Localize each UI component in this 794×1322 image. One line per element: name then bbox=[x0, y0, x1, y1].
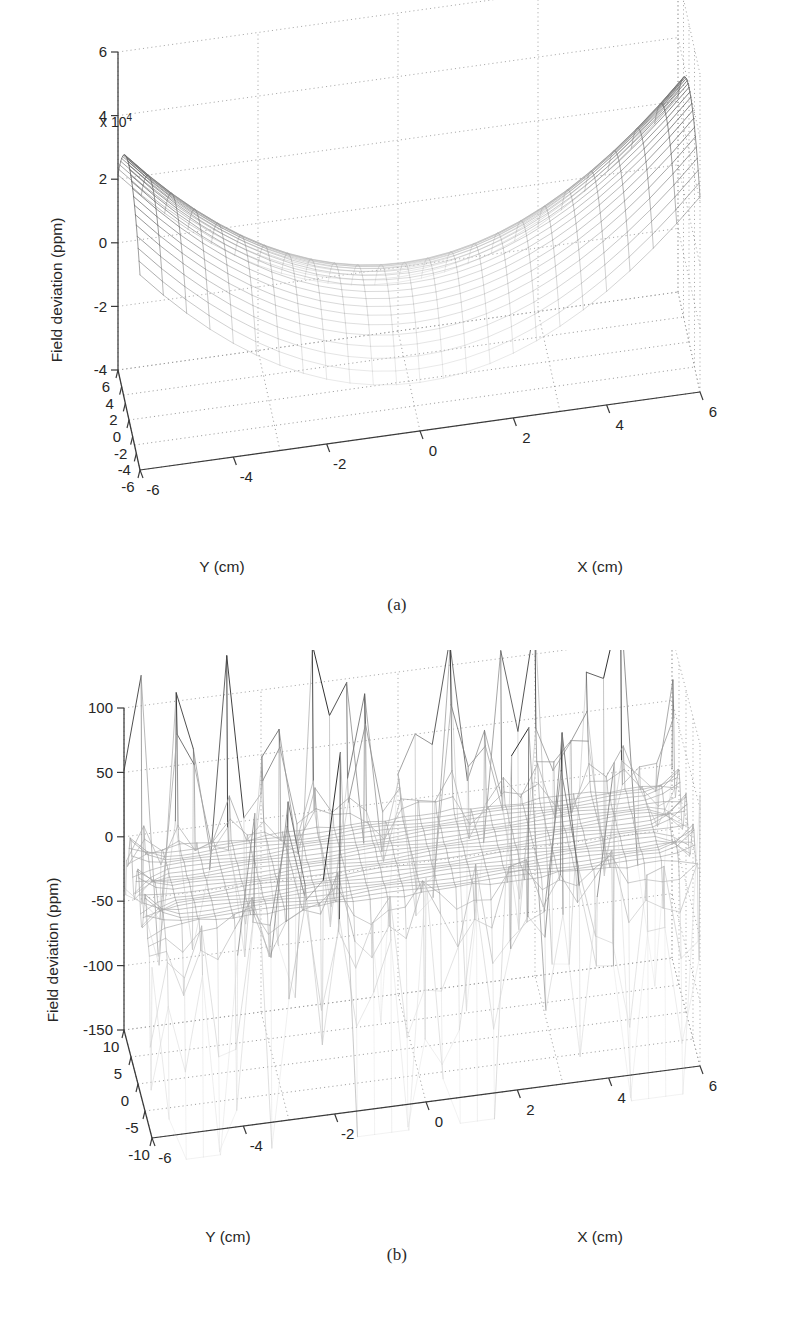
x-tick-label: 4 bbox=[616, 416, 624, 433]
z-tick-label: -100 bbox=[83, 957, 113, 974]
y-tick-label: -2 bbox=[114, 445, 127, 462]
z-axis-exponent-label: x 104 bbox=[100, 112, 132, 130]
caption-b: (b) bbox=[0, 1245, 794, 1265]
x-tick-label: 2 bbox=[526, 1101, 534, 1118]
z-tick-label: 0 bbox=[105, 828, 113, 845]
surface-plot-b: -6-4-202461050-5-10100500-50-100-150X (c… bbox=[0, 650, 794, 1310]
subfigure-a: -6-4-202466420-2-4-66420-2-4X (cm)Y (cm)… bbox=[0, 0, 794, 640]
x-tick-label: -6 bbox=[158, 1149, 171, 1166]
z-tick-label: 50 bbox=[96, 764, 113, 781]
y-axis-title: Y (cm) bbox=[199, 558, 244, 575]
x-tick-label: 0 bbox=[429, 442, 437, 459]
z-tick-label: 2 bbox=[99, 170, 107, 187]
grid-group bbox=[118, 0, 700, 470]
y-tick-label: 2 bbox=[109, 411, 117, 428]
x-tick-label: 6 bbox=[709, 1077, 717, 1094]
x-tick-label: -2 bbox=[341, 1125, 354, 1142]
y-tick-label: 10 bbox=[103, 1038, 120, 1055]
z-tick-label: 6 bbox=[99, 43, 107, 60]
x-tick-label: 6 bbox=[709, 403, 717, 420]
subfigure-b: -6-4-202461050-5-10100500-50-100-150X (c… bbox=[0, 650, 794, 1310]
x-tick-label: 2 bbox=[522, 429, 530, 446]
z-tick-label: -2 bbox=[94, 298, 107, 315]
y-tick-label: -4 bbox=[118, 461, 131, 478]
y-tick-label: 5 bbox=[114, 1065, 122, 1082]
y-axis-title: Y (cm) bbox=[205, 1228, 250, 1245]
y-tick-label: 0 bbox=[121, 1092, 129, 1109]
x-tick-label: -4 bbox=[250, 1137, 263, 1154]
figure-container: -6-4-202466420-2-4-66420-2-4X (cm)Y (cm)… bbox=[0, 0, 794, 1322]
z-axis-title: Field deviation (ppm) bbox=[48, 218, 65, 363]
mesh-group bbox=[118, 77, 700, 385]
caption-a: (a) bbox=[0, 595, 794, 615]
y-tick-label: -6 bbox=[121, 478, 134, 495]
y-tick-label: -10 bbox=[128, 1146, 150, 1163]
z-tick-label: 100 bbox=[88, 699, 113, 716]
x-axis-title: X (cm) bbox=[577, 558, 623, 575]
x-axis-title: X (cm) bbox=[577, 1228, 623, 1245]
z-tick-label: -150 bbox=[83, 1021, 113, 1038]
x-tick-label: -6 bbox=[146, 481, 159, 498]
axis-labels-group: -6-4-202466420-2-4-66420-2-4X (cm)Y (cm)… bbox=[48, 43, 717, 575]
surface-plot-a: -6-4-202466420-2-4-66420-2-4X (cm)Y (cm)… bbox=[0, 0, 794, 640]
x-tick-label: -2 bbox=[333, 455, 346, 472]
z-axis-title: Field deviation (ppm) bbox=[44, 878, 61, 1023]
z-tick-label: -50 bbox=[91, 892, 113, 909]
x-tick-label: -4 bbox=[240, 468, 253, 485]
y-tick-label: 6 bbox=[102, 378, 110, 395]
x-tick-label: 0 bbox=[435, 1113, 443, 1130]
y-tick-label: 4 bbox=[106, 395, 114, 412]
z-tick-label: 0 bbox=[99, 234, 107, 251]
x-tick-label: 4 bbox=[618, 1089, 626, 1106]
y-tick-label: 0 bbox=[113, 428, 121, 445]
mesh-group bbox=[124, 650, 700, 1159]
z-tick-label: -4 bbox=[94, 361, 107, 378]
y-tick-label: -5 bbox=[125, 1119, 138, 1136]
